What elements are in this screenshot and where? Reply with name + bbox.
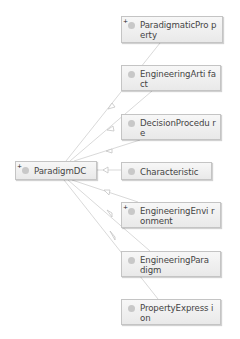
node-label: EngineeringArti fact xyxy=(140,69,216,89)
edge-to-paradigmaticproperty xyxy=(66,43,160,161)
class-bullet-icon xyxy=(128,257,135,264)
class-bullet-icon xyxy=(128,305,135,312)
node-label: ParadigmDC xyxy=(34,166,86,176)
edge-to-propertyexpression xyxy=(64,180,158,299)
class-bullet-icon xyxy=(128,22,135,29)
node-engineeringparadigm[interactable]: EngineeringPara digm xyxy=(121,251,221,277)
node-label: ParadigmaticPro perty xyxy=(140,20,216,40)
node-paradigmaticproperty[interactable]: + ParadigmaticPro perty xyxy=(121,16,223,43)
node-engineeringartifact[interactable]: EngineeringArti fact xyxy=(121,65,221,91)
node-label: DecisionProcedu re xyxy=(140,118,216,138)
node-decisionprocedure[interactable]: DecisionProcedu re xyxy=(121,114,221,140)
node-characteristic[interactable]: Characteristic xyxy=(121,162,212,180)
node-label: PropertyExpress ion xyxy=(140,303,213,323)
class-bullet-icon xyxy=(128,120,135,127)
node-paradigmdc[interactable]: + ParadigmDC xyxy=(15,161,97,180)
class-bullet-icon xyxy=(128,71,135,78)
node-engineeringenvironment[interactable]: + EngineeringEnvi ronment xyxy=(121,202,221,228)
arrowhead-icon xyxy=(106,149,112,153)
arrowhead-icon xyxy=(104,190,110,195)
class-bullet-icon xyxy=(128,168,135,175)
node-propertyexpression[interactable]: PropertyExpress ion xyxy=(121,299,221,325)
expand-icon[interactable]: + xyxy=(123,204,128,209)
class-bullet-icon xyxy=(22,167,29,174)
expand-icon[interactable]: + xyxy=(123,18,128,23)
node-label: EngineeringPara digm xyxy=(140,255,209,275)
class-bullet-icon xyxy=(128,208,135,215)
expand-icon[interactable]: + xyxy=(17,163,22,168)
node-label: EngineeringEnvi ronment xyxy=(140,206,214,226)
arrowhead-icon xyxy=(103,167,108,173)
node-label: Characteristic xyxy=(140,167,198,177)
arrowhead-icon xyxy=(108,103,115,109)
